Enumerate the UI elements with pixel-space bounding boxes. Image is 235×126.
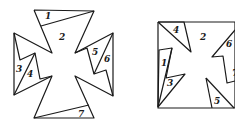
square-figure-outline [158,22,235,108]
piece-label: 5 [92,47,98,57]
square-figure: 4213675 [158,22,235,108]
piece-label: 6 [226,39,233,49]
piece-label: 2 [58,32,65,42]
piece-label: 1 [45,11,51,21]
piece-label: 1 [161,58,167,68]
piece-label: 2 [199,32,206,42]
dissection-diagram: 1234567 4213675 [0,0,235,126]
piece-label: 4 [173,25,179,35]
piece-label: 7 [78,109,85,119]
cut-line-piece-5 [206,78,212,108]
piece-label: 7 [232,68,235,78]
piece-label: 3 [167,78,173,88]
piece-label: 4 [27,69,33,79]
piece-label: 3 [16,64,22,74]
piece-label: 6 [104,54,111,64]
piece-label: 5 [214,96,220,106]
cross-figure: 1234567 [14,10,113,119]
